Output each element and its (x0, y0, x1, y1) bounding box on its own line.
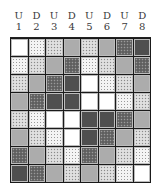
grid-cell-r4-c6 (99, 93, 116, 110)
grid-cell-r2-c4 (64, 57, 81, 74)
grid-cell-r8-c2 (29, 165, 46, 182)
column-label-7: U7 (116, 11, 134, 33)
column-number: 2 (28, 22, 46, 33)
column-label-1: U1 (10, 11, 28, 33)
column-number: 1 (10, 22, 28, 33)
column-label-2: D2 (28, 11, 46, 33)
grid-cell-r8-c4 (64, 165, 81, 182)
grid-cell-r2-c1 (11, 57, 28, 74)
grid-cell-r1-c6 (99, 39, 116, 56)
grid-cell-r1-c2 (29, 39, 46, 56)
grid-cell-r4-c5 (81, 93, 98, 110)
grid-cell-r6-c4 (64, 129, 81, 146)
grid-cell-r6-c6 (99, 129, 116, 146)
grid-cell-r5-c1 (11, 111, 28, 128)
column-label-6: D6 (98, 11, 116, 33)
grid-cell-r7-c7 (116, 147, 133, 164)
grid-cell-r7-c6 (99, 147, 116, 164)
column-number: 6 (98, 22, 116, 33)
grid-cell-r3-c2 (29, 75, 46, 92)
grid-cell-r3-c4 (64, 75, 81, 92)
grid-cell-r8-c5 (81, 165, 98, 182)
grid-cell-r7-c2 (29, 147, 46, 164)
grid-cell-r7-c5 (81, 147, 98, 164)
grid-cell-r6-c5 (81, 129, 98, 146)
grid-cell-r6-c8 (134, 129, 151, 146)
grid-cell-r4-c7 (116, 93, 133, 110)
grid-cell-r7-c1 (11, 147, 28, 164)
pattern-grid (10, 38, 151, 183)
grid-cell-r8-c8 (134, 165, 151, 182)
column-number: 7 (116, 22, 134, 33)
column-header: U1 D2 U3 D4 U5 D6 U7 D8 (10, 11, 151, 33)
column-number: 4 (63, 22, 81, 33)
grid-cell-r8-c7 (116, 165, 133, 182)
grid-cell-r5-c4 (64, 111, 81, 128)
column-number: 3 (45, 22, 63, 33)
grid-cell-r1-c7 (116, 39, 133, 56)
grid-cell-r3-c6 (99, 75, 116, 92)
grid-cell-r5-c7 (116, 111, 133, 128)
grid-cell-r4-c2 (29, 93, 46, 110)
grid-cell-r6-c1 (11, 129, 28, 146)
grid-cell-r2-c2 (29, 57, 46, 74)
grid-cell-r8-c3 (46, 165, 63, 182)
grid-cell-r7-c8 (134, 147, 151, 164)
column-number: 5 (81, 22, 99, 33)
column-number: 8 (133, 22, 151, 33)
grid-cell-r2-c3 (46, 57, 63, 74)
grid-cell-r5-c8 (134, 111, 151, 128)
grid-cell-r4-c4 (64, 93, 81, 110)
grid-cell-r1-c3 (46, 39, 63, 56)
grid-cell-r5-c2 (29, 111, 46, 128)
grid-cell-r7-c4 (64, 147, 81, 164)
grid-cell-r6-c3 (46, 129, 63, 146)
grid-cell-r3-c7 (116, 75, 133, 92)
grid-cell-r1-c4 (64, 39, 81, 56)
grid-cell-r8-c6 (99, 165, 116, 182)
grid-cell-r1-c5 (81, 39, 98, 56)
column-label-4: D4 (63, 11, 81, 33)
grid-cell-r4-c1 (11, 93, 28, 110)
grid-cell-r3-c8 (134, 75, 151, 92)
column-label-8: D8 (133, 11, 151, 33)
grid-cell-r3-c3 (46, 75, 63, 92)
grid-cell-r3-c1 (11, 75, 28, 92)
grid-cell-r2-c6 (99, 57, 116, 74)
grid-cell-r4-c3 (46, 93, 63, 110)
grid-cell-r7-c3 (46, 147, 63, 164)
column-label-5: U5 (81, 11, 99, 33)
column-label-3: U3 (45, 11, 63, 33)
grid-cell-r2-c7 (116, 57, 133, 74)
grid-cell-r1-c8 (134, 39, 151, 56)
grid-cell-r3-c5 (81, 75, 98, 92)
grid-cell-r4-c8 (134, 93, 151, 110)
grid-cell-r5-c3 (46, 111, 63, 128)
grid-cell-r6-c2 (29, 129, 46, 146)
grid-cell-r2-c8 (134, 57, 151, 74)
grid-cell-r5-c6 (99, 111, 116, 128)
grid-cell-r5-c5 (81, 111, 98, 128)
grid-cell-r6-c7 (116, 129, 133, 146)
grid-cell-r8-c1 (11, 165, 28, 182)
grid-cell-r2-c5 (81, 57, 98, 74)
grid-cell-r1-c1 (11, 39, 28, 56)
